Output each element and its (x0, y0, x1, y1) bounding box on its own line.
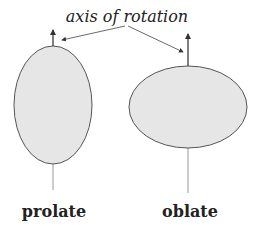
prolate-label: prolate (22, 202, 86, 221)
axis-label: axis of rotation (66, 7, 188, 26)
oblate-ellipse (129, 66, 247, 148)
prolate-spheroid (14, 30, 92, 190)
pointer-arrow-right (128, 26, 183, 52)
pointer-arrow-left (62, 26, 125, 40)
spheroid-diagram: axis of rotation prolate oblate (0, 0, 257, 232)
prolate-ellipse (14, 46, 92, 164)
oblate-label: oblate (162, 202, 218, 221)
oblate-spheroid (129, 34, 247, 193)
